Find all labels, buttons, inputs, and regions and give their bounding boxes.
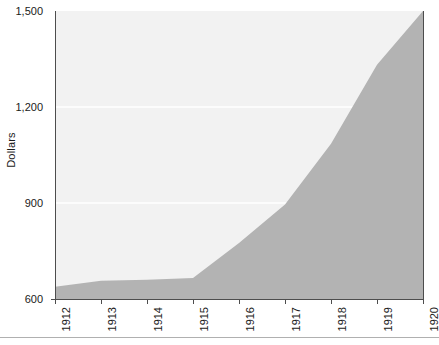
y-tick-label: 900 (25, 197, 43, 209)
x-tick-mark (377, 299, 378, 304)
x-axis-ticks: 191219131914191519161917191819191920 (0, 299, 439, 345)
x-tick-label: 1914 (152, 307, 164, 331)
bottom-divider (0, 337, 439, 338)
x-tick-mark (55, 299, 56, 304)
plot-canvas (55, 11, 423, 299)
x-tick-label: 1913 (106, 307, 118, 331)
y-tick-label: 1,200 (15, 101, 43, 113)
y-axis-line (55, 11, 56, 299)
x-tick-label: 1917 (290, 307, 302, 331)
x-tick-mark (193, 299, 194, 304)
x-tick-label: 1916 (244, 307, 256, 331)
x-tick-label: 1912 (60, 307, 72, 331)
area-series-dollars (55, 11, 423, 299)
x-tick-label: 1920 (428, 307, 439, 331)
plot-area (55, 11, 423, 299)
x-tick-mark (423, 299, 424, 304)
x-tick-mark (101, 299, 102, 304)
right-axis-line (423, 11, 424, 299)
x-tick-mark (239, 299, 240, 304)
x-tick-label: 1918 (336, 307, 348, 331)
x-tick-label: 1919 (382, 307, 394, 331)
x-tick-label: 1915 (198, 307, 210, 331)
y-axis-ticks: 1,5001,200900600 (0, 0, 50, 345)
x-tick-mark (147, 299, 148, 304)
area-chart: Dollars 1,5001,200900600 191219131914191… (0, 0, 439, 345)
x-tick-mark (285, 299, 286, 304)
y-tick-label: 1,500 (15, 5, 43, 17)
x-tick-mark (331, 299, 332, 304)
